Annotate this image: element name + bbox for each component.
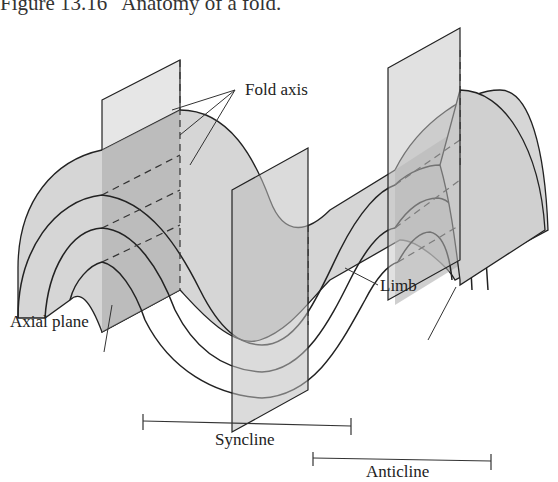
limb-label: Limb bbox=[380, 276, 417, 296]
fold-axis-label: Fold axis bbox=[245, 80, 308, 100]
axial-plane-center bbox=[232, 148, 308, 432]
axial-plane-label: Axial plane bbox=[10, 312, 89, 332]
anticline-label: Anticline bbox=[366, 462, 429, 482]
fold-diagram bbox=[0, 0, 558, 482]
syncline-label: Syncline bbox=[215, 430, 275, 450]
axial-plane-right bbox=[388, 28, 460, 300]
